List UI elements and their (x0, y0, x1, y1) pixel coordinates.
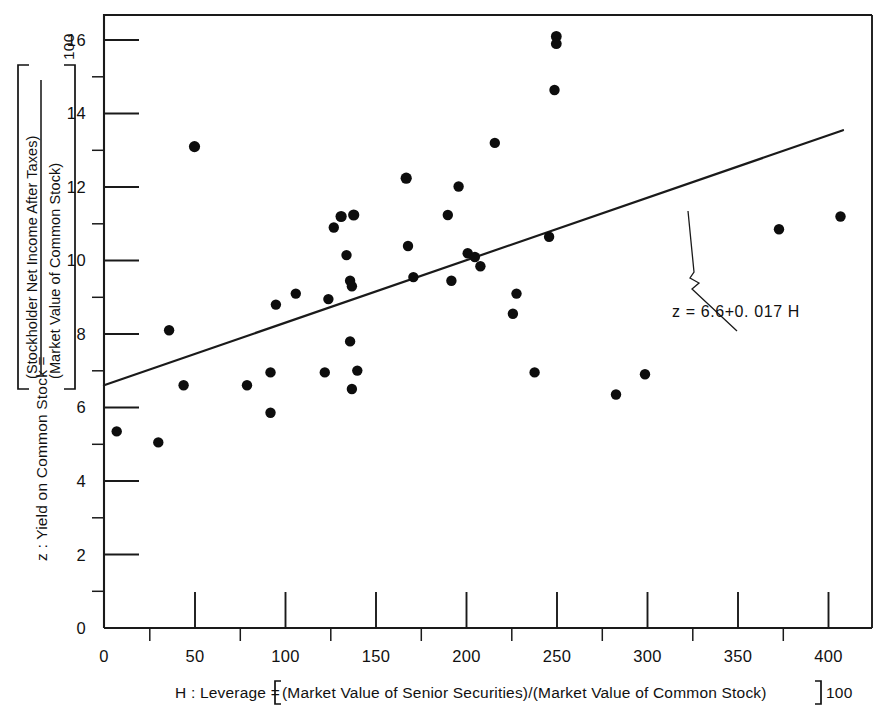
data-point (153, 437, 163, 447)
x-axis-title-variable: H : Leverage = (175, 684, 280, 701)
y-tick-label-4: 4 (76, 472, 86, 490)
x-axis-right-bracket (815, 681, 821, 704)
data-point (329, 222, 339, 232)
data-point (345, 336, 355, 346)
y-axis-title-variable: z : Yield on Common Stock = (33, 356, 50, 561)
data-point (112, 426, 122, 436)
x-axis-tick-labels: 0 50 100 150 200 250 300 350 400 (99, 647, 843, 665)
data-point (323, 294, 333, 304)
y-tick-label-2: 2 (76, 546, 86, 564)
x-axis-ticks (150, 592, 829, 641)
data-point (835, 211, 845, 221)
y-axis-title-multiplier: 100 (60, 33, 77, 60)
x-axis-title-multiplier: 100 (826, 684, 853, 701)
x-tick-label-300: 300 (633, 647, 662, 665)
data-point (403, 241, 413, 251)
y-axis-title-numerator: (Stockholder Net Income After Taxes) (24, 136, 40, 380)
data-point (291, 288, 301, 298)
y-tick-label-12: 12 (67, 178, 86, 196)
scatter-plot-figure: 16 14 12 10 8 6 4 2 0 (0, 0, 884, 719)
data-point (446, 276, 456, 286)
data-point (549, 85, 559, 95)
x-tick-label-50: 50 (185, 647, 204, 665)
x-tick-label-150: 150 (362, 647, 391, 665)
data-point (178, 380, 188, 390)
data-point (508, 309, 518, 319)
data-point (271, 299, 281, 309)
data-point (347, 384, 357, 394)
data-point (408, 272, 418, 282)
data-point (640, 369, 650, 379)
y-axis-title-denominator: (Market Value of Common Stock) (47, 163, 63, 379)
data-point (453, 181, 463, 191)
chart-svg: 16 14 12 10 8 6 4 2 0 (0, 0, 884, 719)
data-point (611, 389, 621, 399)
data-point (341, 250, 351, 260)
data-point (189, 141, 200, 152)
data-point (352, 365, 362, 375)
x-tick-label-200: 200 (452, 647, 481, 665)
data-point (348, 209, 359, 220)
data-point (443, 210, 453, 220)
regression-equation-label: z = 6.6+0. 017 H (672, 303, 800, 320)
data-point (470, 252, 480, 262)
data-point (511, 288, 521, 298)
data-point (265, 408, 275, 418)
x-tick-label-400: 400 (814, 647, 843, 665)
data-point (529, 367, 539, 377)
data-point (475, 261, 485, 271)
x-tick-label-250: 250 (543, 647, 572, 665)
x-axis-title-expression: (Market Value of Senior Securities)/(Mar… (282, 684, 767, 701)
y-axis-ticks (92, 40, 139, 591)
y-axis-tick-labels: 16 14 12 10 8 6 4 2 0 (67, 31, 86, 637)
x-tick-label-0: 0 (99, 647, 109, 665)
y-tick-label-8: 8 (76, 325, 86, 343)
data-point-layer (112, 31, 846, 448)
y-tick-label-10: 10 (67, 251, 86, 269)
data-point (551, 38, 562, 49)
data-point (490, 138, 500, 148)
plot-frame (104, 14, 872, 628)
y-tick-label-14: 14 (67, 104, 86, 122)
x-axis-title-group: H : Leverage = (Market Value of Senior S… (175, 681, 853, 704)
data-point (242, 380, 252, 390)
data-point (401, 173, 412, 184)
data-point (265, 367, 275, 377)
x-tick-label-100: 100 (271, 647, 300, 665)
y-tick-label-6: 6 (76, 398, 86, 416)
data-point (347, 281, 357, 291)
data-point (320, 367, 330, 377)
x-tick-label-350: 350 (724, 647, 753, 665)
data-point (544, 232, 554, 242)
y-tick-label-0: 0 (76, 619, 86, 637)
data-point (164, 325, 174, 335)
data-point (774, 224, 784, 234)
data-point (336, 211, 347, 222)
